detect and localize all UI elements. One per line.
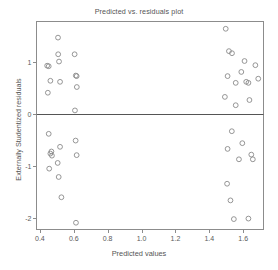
scatter-point	[73, 138, 78, 143]
scatter-point	[247, 98, 252, 103]
scatter-point	[72, 52, 77, 57]
scatter-point	[246, 216, 251, 221]
scatter-point	[46, 131, 51, 136]
y-tick-label: -2	[15, 215, 32, 222]
scatter-point	[45, 90, 50, 95]
scatter-point	[240, 141, 245, 146]
scatter-point	[58, 144, 63, 149]
scatter-point	[47, 166, 52, 171]
scatter-point	[56, 35, 61, 40]
scatter-point	[229, 129, 234, 134]
plot-canvas	[0, 0, 278, 270]
scatter-point	[231, 217, 236, 222]
scatter-point	[225, 74, 230, 79]
scatter-point	[57, 59, 62, 64]
scatter-point	[74, 85, 79, 90]
scatter-point	[225, 147, 230, 152]
scatter-point	[256, 76, 261, 81]
scatter-point	[56, 175, 61, 180]
x-tick-label: 0.4	[35, 235, 45, 242]
x-tick-label: 0.6	[69, 235, 79, 242]
scatter-point	[228, 198, 233, 203]
scatter-point	[233, 80, 238, 85]
scatter-point	[55, 161, 60, 166]
x-tick-label: 1.0	[137, 235, 147, 242]
scatter-point	[249, 152, 254, 157]
scatter-point	[253, 63, 258, 68]
scatter-point	[58, 79, 63, 84]
scatter-point	[225, 181, 230, 186]
scatter-plot-figure: Predicted vs. residuals plot 0.40.60.81.…	[0, 0, 278, 270]
scatter-point	[239, 70, 244, 75]
scatter-point	[48, 78, 53, 83]
data-points	[45, 26, 261, 225]
scatter-point	[74, 153, 79, 158]
scatter-point	[73, 108, 78, 113]
scatter-point	[74, 220, 79, 225]
x-tick-label: 1.4	[204, 235, 214, 242]
y-axis-label: Externally Studentized residuals	[14, 50, 23, 210]
scatter-point	[237, 157, 242, 162]
x-tick-label: 1.6	[238, 235, 248, 242]
scatter-point	[56, 52, 61, 57]
scatter-point	[250, 157, 255, 162]
x-tick-label: 0.8	[103, 235, 113, 242]
scatter-point	[59, 195, 64, 200]
scatter-point	[242, 59, 247, 64]
scatter-point	[222, 95, 227, 100]
scatter-point	[233, 103, 238, 108]
x-axis-label: Predicted values	[0, 249, 278, 258]
scatter-point	[223, 26, 228, 31]
axis-tick-marks	[33, 63, 244, 234]
x-tick-label: 1.2	[171, 235, 181, 242]
